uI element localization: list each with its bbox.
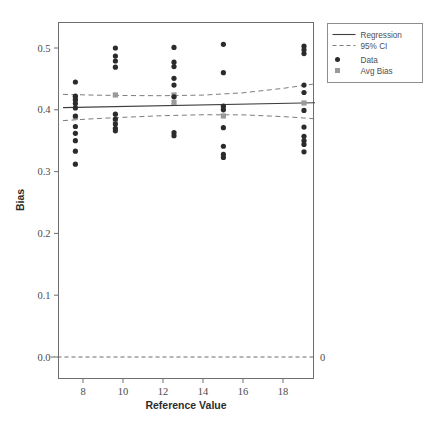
y-axis-title: Bias [14, 189, 26, 211]
legend-item-label: Data [361, 56, 379, 65]
x-tick-label: 10 [118, 386, 129, 397]
ci-lower-line [63, 115, 315, 121]
data-point-marker [73, 124, 78, 129]
data-point-marker [301, 125, 306, 130]
data-point-marker [221, 144, 226, 149]
x-axis-title: Reference Value [145, 399, 226, 411]
data-point-marker [171, 82, 176, 87]
x-tick-label: 18 [278, 386, 289, 397]
data-point-marker [73, 138, 78, 143]
y-tick-label: 0.3 [37, 166, 50, 177]
ci-upper-line [63, 84, 315, 96]
plot-canvas: 81012141618 0.00.10.20.30.40.5 Regressio… [0, 0, 432, 426]
data-point-marker [113, 58, 118, 63]
plot-frame [59, 23, 314, 379]
y-tick-label: 0.1 [37, 290, 50, 301]
x-tick-label: 8 [80, 386, 85, 397]
data-point-marker [113, 128, 118, 133]
legend-item-label: Regression [361, 31, 403, 40]
data-point-marker [301, 149, 306, 154]
data-point-marker [171, 133, 176, 138]
data-point-marker [221, 155, 226, 160]
plot-border [59, 23, 314, 379]
data-point-marker [113, 65, 118, 70]
chart-legend: Regression95% CIDataAvg Bias [328, 24, 423, 83]
data-point-marker [221, 70, 226, 75]
data-point-marker [73, 131, 78, 136]
legend-square-swatch [335, 68, 340, 73]
bias-vs-reference-scatter-chart: 81012141618 0.00.10.20.30.40.5 Regressio… [0, 0, 432, 426]
regression-fit-line [63, 103, 315, 108]
data-point-marker [221, 42, 226, 47]
data-point-marker [113, 45, 118, 50]
data-point-marker [171, 76, 176, 81]
avg-bias-marker [113, 92, 118, 97]
y-axis-ticks: 0.00.10.20.30.40.5 [37, 43, 58, 363]
data-point-marker [113, 112, 118, 117]
data-point-marker [221, 125, 226, 130]
data-point-marker [73, 149, 78, 154]
data-point-marker [221, 107, 226, 112]
data-point-marker [301, 82, 306, 87]
data-point-marker [171, 64, 176, 69]
data-point-markers [73, 42, 307, 167]
legend-item-label: Avg Bias [361, 67, 393, 76]
regression-line [63, 103, 315, 108]
data-point-marker [73, 113, 78, 118]
data-point-marker [73, 79, 78, 84]
data-point-marker [73, 105, 78, 110]
y-tick-label: 0.5 [37, 43, 50, 54]
legend-item-label: 95% CI [361, 42, 388, 51]
x-tick-label: 16 [238, 386, 249, 397]
data-point-marker [171, 94, 176, 99]
x-tick-label: 14 [198, 386, 209, 397]
y-tick-label: 0.4 [37, 104, 51, 115]
avg-bias-marker [221, 113, 226, 118]
y-tick-label: 0.2 [37, 228, 50, 239]
data-point-marker [301, 142, 306, 147]
x-axis-ticks: 81012141618 [80, 379, 288, 397]
legend-circle-swatch [335, 57, 340, 62]
right-axis-zero-label: 0 [320, 352, 325, 363]
data-point-marker [301, 90, 306, 95]
data-point-marker [301, 51, 306, 56]
y-tick-label: 0.0 [37, 352, 50, 363]
data-point-marker [113, 53, 118, 58]
data-point-marker [301, 108, 306, 113]
data-point-marker [113, 116, 118, 121]
avg-bias-marker [171, 100, 176, 105]
data-point-marker [171, 45, 176, 50]
avg-bias-marker [301, 100, 306, 105]
confidence-interval-lines [63, 84, 315, 121]
x-tick-label: 12 [158, 386, 169, 397]
data-point-marker [73, 162, 78, 167]
